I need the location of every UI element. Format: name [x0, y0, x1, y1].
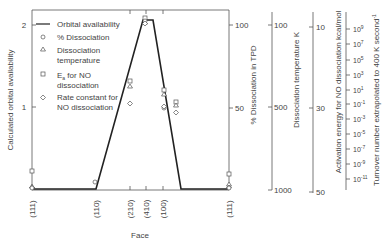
x-tick-111-right: (111): [225, 200, 234, 218]
legend-temp-1: Dissociation: [57, 46, 100, 55]
pct-tick-50: 50: [235, 104, 244, 113]
legend-rate-1: Rate constant for: [57, 93, 118, 102]
legend-ea-1: Ea for NO: [57, 71, 91, 81]
triangle-marker: [128, 84, 133, 88]
square-marker: [30, 169, 34, 173]
left-tick-1: 1: [22, 103, 27, 112]
temp-tick-500: 500: [274, 103, 288, 112]
pct-axis-label: % Dissociation in TPD: [249, 45, 258, 124]
legend-temp-2: temperature: [57, 56, 101, 65]
legend-pct: % Dissociation: [57, 33, 109, 42]
diamond-marker: [128, 101, 133, 106]
ton-tick: 10-7: [353, 144, 365, 153]
x-tick-410: (410): [142, 199, 151, 218]
legend-diamond-icon: [41, 95, 46, 100]
x-tick-labels: (111) (110) (210) (410) (100) (111): [28, 199, 234, 218]
x-axis-label: Face: [131, 231, 149, 240]
ton-tick: 10-5: [353, 129, 365, 138]
x-tick-100: (100): [159, 199, 168, 218]
temp-tick-100: 100: [274, 21, 288, 30]
pct-axis: [229, 25, 233, 108]
square-marker: [227, 172, 231, 176]
temp-tick-1000: 1000: [274, 186, 292, 195]
ton-tick: 10-1: [353, 99, 365, 108]
ton-tick: 109: [353, 24, 364, 33]
pct-tick-100: 100: [235, 21, 249, 30]
ton-tick: 105: [353, 55, 364, 64]
circle-marker: [30, 186, 34, 190]
legend-ea-2: dissociation: [57, 81, 99, 90]
legend-circle-icon: [41, 35, 45, 39]
temp-axis-label: Dissociation temperature K: [292, 31, 301, 128]
ton-tick: 10-11: [353, 174, 368, 183]
left-axis-ticks: [32, 25, 36, 107]
face-ticks: [130, 10, 163, 190]
circle-marker: [227, 186, 231, 190]
legend-square-icon: [41, 72, 45, 76]
ea-tick-10: 10: [316, 23, 325, 32]
circle-marker: [93, 180, 97, 184]
temp-axis: [268, 12, 272, 190]
x-tick-110: (110): [92, 200, 101, 218]
diamond-marker: [174, 110, 179, 115]
ton-tick: 107: [353, 39, 364, 48]
ea-tick-50: 50: [316, 188, 325, 197]
ea-axis: [309, 12, 313, 193]
ton-tick: 101: [353, 85, 364, 94]
ea-axis-label: Activation energy for NO dissociation kc…: [334, 10, 343, 173]
legend-triangle-icon: [41, 47, 46, 51]
legend-orbital: Orbital availability: [57, 20, 120, 29]
ton-tick: 10-9: [353, 159, 365, 168]
legend-rate-2: NO dissociation: [57, 103, 113, 112]
ton-axis: [346, 12, 350, 190]
x-tick-210: (210): [126, 199, 135, 218]
chart: 2 1 Calculated orbital availability (111…: [0, 0, 384, 245]
ton-tick: 103: [353, 70, 364, 79]
left-tick-2: 2: [22, 21, 27, 30]
legend: Orbital availability % Dissociation Diss…: [36, 20, 120, 112]
x-tick-111-left: (111): [28, 200, 37, 218]
ea-tick-30: 30: [316, 104, 325, 113]
square-marker: [128, 79, 132, 83]
ton-tick-labels: 109 107 105 103 101 10-1 10-3 10-5 10-7 …: [353, 24, 368, 183]
left-axis-label: Calculated orbital availability: [6, 50, 15, 151]
ton-axis-label: Turnover number extrapolated to 400 K se…: [371, 14, 381, 186]
ton-tick: 10-3: [353, 114, 365, 123]
